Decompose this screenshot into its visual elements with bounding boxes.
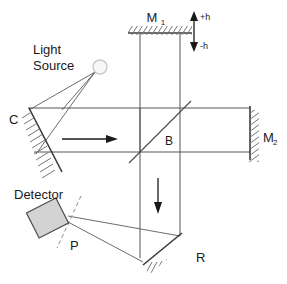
interferometer-diagram: M 1 +h -h Light Source xyxy=(0,0,287,284)
mirror-m1: M 1 xyxy=(126,10,198,36)
mirror-r: R xyxy=(143,232,205,273)
detector: Detector xyxy=(14,187,69,238)
light-source-label-line2: Source xyxy=(33,58,74,73)
beam-splitter-label: B xyxy=(165,134,173,148)
light-source: Light Source xyxy=(33,42,107,74)
ray-source-focus xyxy=(62,72,95,110)
displacement-positive-label: +h xyxy=(200,12,210,22)
ray-source-to-c-lower xyxy=(36,72,95,154)
beam-splitter-surface xyxy=(129,101,191,163)
mirror-c-hatching xyxy=(20,104,59,190)
beam-arrow-right-head xyxy=(106,135,118,143)
detector-body xyxy=(26,198,68,238)
mirror-c-label: C xyxy=(9,112,18,127)
displacement-negative-label: -h xyxy=(200,41,208,51)
beam-arrow-down xyxy=(154,178,162,214)
mirror-r-hatching xyxy=(146,232,196,273)
diagram-canvas: M 1 +h -h Light Source xyxy=(0,0,287,284)
displacement-arrow-head-up xyxy=(190,11,198,21)
mirror-m1-label: M xyxy=(147,10,158,25)
mirror-m2-label-subscript: 2 xyxy=(273,138,278,147)
detector-label: Detector xyxy=(14,187,64,202)
beam-r-to-detector-lower xyxy=(68,222,143,262)
mirror-m1-label-subscript: 1 xyxy=(161,18,166,27)
mirror-r-face xyxy=(143,233,182,265)
mirror-c: C xyxy=(9,104,62,190)
mirror-m2: M 2 xyxy=(249,106,278,168)
light-source-bulb-icon xyxy=(93,60,107,74)
polarizer-p-label: P xyxy=(70,238,79,253)
beam-r-to-detector-upper xyxy=(68,216,180,236)
displacement-arrow-head-down xyxy=(190,42,198,52)
beam-arrow-down-head xyxy=(154,202,162,214)
light-source-label-line1: Light xyxy=(33,42,62,57)
mirror-r-label: R xyxy=(196,250,205,265)
m1-displacement-arrow: +h -h xyxy=(190,11,210,52)
ray-source-to-c-upper xyxy=(29,72,95,110)
beam-arrow-right xyxy=(62,135,118,143)
beam-splitter: B xyxy=(129,101,191,163)
